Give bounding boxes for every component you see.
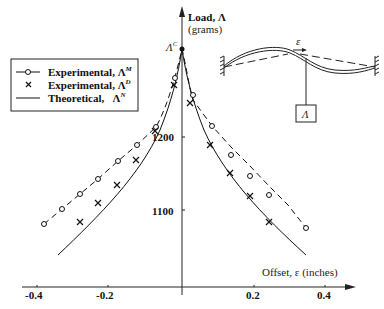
legend-circle-marker-icon <box>26 70 31 75</box>
x-axis-title: Offset, ε (inches) <box>262 266 338 279</box>
legend-item-theoretical: Theoretical, ΛN <box>48 91 126 104</box>
offset-arrow-icon <box>302 48 307 52</box>
inset-load-label: Λ <box>301 108 309 120</box>
x-tick-label: -0.2 <box>96 289 114 301</box>
legend-item-experimental-m: Experimental, ΛM <box>48 65 133 78</box>
chart-canvas: -0.4 -0.2 0.2 0.4 1200 1100 Load, Λ (gra… <box>0 0 384 309</box>
x-tick-label: -0.4 <box>25 289 43 301</box>
axes <box>22 6 356 295</box>
x-tick-label: 0.2 <box>246 289 260 301</box>
legend-item-experimental-d: Experimental, ΛD <box>48 78 131 91</box>
inset-beam-diagram: Λ ε <box>220 35 379 122</box>
y-axis-title: Load, Λ <box>188 11 226 23</box>
y-axis-units: (grams) <box>188 23 223 36</box>
x-tick-label: 0.4 <box>317 289 331 301</box>
x-axis-arrow-icon <box>345 284 356 290</box>
peak-label: ΛC <box>165 40 178 53</box>
y-axis-arrow-icon <box>179 6 185 17</box>
y-tick-label: 1200 <box>152 131 175 143</box>
y-tick-label: 1100 <box>152 205 174 217</box>
inset-offset-label: ε <box>296 35 301 47</box>
legend: Experimental, ΛM Experimental, ΛD Theore… <box>11 59 138 111</box>
